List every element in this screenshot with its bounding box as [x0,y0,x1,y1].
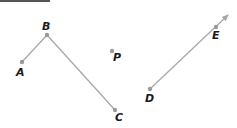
segments [22,35,115,110]
label-c: C [115,111,123,124]
segment-BC [47,35,115,110]
point-d [148,87,152,91]
label-d: D [145,92,154,105]
label-a: A [15,66,25,79]
point-b [45,33,49,37]
point-a [20,60,24,64]
label-p: P [113,51,121,64]
geometry-figure: ABCPDE [0,0,237,128]
points: ABCPDE [15,20,220,124]
label-e: E [212,29,220,42]
label-b: B [42,20,50,33]
segment-AB [22,35,47,62]
